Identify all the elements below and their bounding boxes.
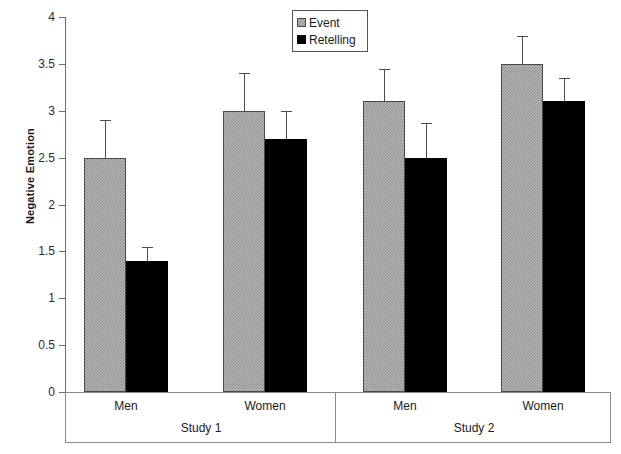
bar-retelling-study-2-men [405, 158, 447, 392]
y-tick-label: 1.5 [38, 244, 55, 258]
category-label: Men [86, 399, 166, 413]
y-tick: 3 [59, 111, 66, 112]
error-bar-cap [281, 111, 292, 112]
error-bar-cap [239, 73, 250, 74]
y-tick-label: 0.5 [38, 338, 55, 352]
error-bar-stem [522, 36, 523, 64]
retelling-swatch-icon [297, 35, 306, 44]
bar-event-study-2-men [363, 101, 405, 392]
event-swatch-icon [297, 18, 306, 27]
y-tick: 1.5 [59, 251, 66, 252]
error-bar-stem [147, 247, 148, 261]
error-bar-cap [517, 36, 528, 37]
error-bar-cap [421, 123, 432, 124]
error-bar-cap [559, 78, 570, 79]
error-bar-stem [384, 69, 385, 102]
y-tick-label: 4 [48, 10, 55, 24]
legend: Event Retelling [292, 10, 368, 52]
bar-retelling-study-2-women [543, 101, 585, 392]
error-bar-stem [286, 111, 287, 139]
y-tick-label: 3.5 [38, 57, 55, 71]
legend-item-event: Event [297, 14, 363, 31]
y-tick: 2 [59, 205, 66, 206]
bar-event-study-2-women [501, 64, 543, 392]
error-bar-stem [564, 78, 565, 101]
bar-retelling-study-1-men [126, 261, 168, 392]
error-bar-cap [379, 69, 390, 70]
y-tick: 4 [59, 17, 66, 18]
y-tick-label: 2.5 [38, 151, 55, 165]
group-divider [335, 392, 336, 443]
category-label-band: MenWomenMenWomenStudy 1Study 2 [65, 392, 611, 443]
bar-event-study-1-women [223, 111, 265, 392]
bar-event-study-1-men [84, 158, 126, 392]
y-tick: 3.5 [59, 64, 66, 65]
plot-area: 00.511.522.533.54 [65, 17, 611, 392]
error-bar-stem [105, 120, 106, 158]
y-tick: 0.5 [59, 345, 66, 346]
error-bar-cap [142, 247, 153, 248]
category-label: Men [365, 399, 445, 413]
study-label: Study 1 [151, 421, 251, 435]
category-label: Women [503, 399, 583, 413]
error-bar-stem [244, 73, 245, 111]
y-tick: 1 [59, 298, 66, 299]
category-label: Women [225, 399, 305, 413]
y-tick-label: 3 [48, 104, 55, 118]
bar-retelling-study-1-women [265, 139, 307, 392]
legend-label-retelling: Retelling [309, 34, 356, 46]
error-bar-cap [100, 120, 111, 121]
legend-item-retelling: Retelling [297, 31, 363, 48]
y-tick-label: 0 [48, 385, 55, 399]
y-tick: 2.5 [59, 158, 66, 159]
y-tick-label: 2 [48, 198, 55, 212]
error-bar-stem [426, 123, 427, 158]
y-tick-label: 1 [48, 291, 55, 305]
negative-emotion-bar-chart: Negative Emotion 00.511.522.533.54 Event… [0, 0, 621, 454]
legend-label-event: Event [309, 17, 340, 29]
study-label: Study 2 [424, 421, 524, 435]
y-axis-title: Negative Emotion [24, 86, 36, 266]
